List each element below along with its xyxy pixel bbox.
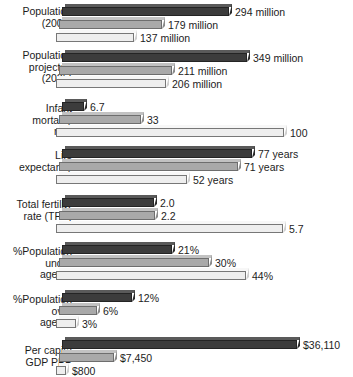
bar-series-container: 6.733100 (0, 99, 353, 142)
bar[interactable] (59, 350, 117, 363)
bar-front-face (59, 211, 155, 220)
bar-series-container: 294 million179 million137 million (0, 4, 353, 47)
bar[interactable] (62, 99, 87, 112)
bar-group: %Population over age 6512%6%3% (0, 290, 353, 333)
bar[interactable] (59, 112, 144, 125)
bar-front-face (59, 306, 97, 315)
bar-front-face (62, 53, 247, 62)
bar-value-label: 77 years (258, 148, 298, 160)
bar-front-face (59, 115, 141, 124)
bar-group: %Population under age 1521%30%44% (0, 242, 353, 285)
bar-front-face (56, 175, 187, 184)
bar-front-face (59, 258, 209, 267)
bar[interactable] (56, 125, 287, 138)
bar[interactable] (62, 195, 157, 208)
bar-value-label: 2.0 (160, 197, 175, 209)
bar[interactable] (56, 30, 137, 43)
bar-series-container: 12%6%3% (0, 290, 353, 333)
bar[interactable] (62, 146, 255, 159)
bar[interactable] (62, 4, 232, 17)
bar-series-container: 2.02.25.7 (0, 195, 353, 238)
bar-front-face (56, 224, 283, 233)
bar-value-label: 137 million (140, 32, 190, 44)
bar[interactable] (59, 17, 165, 30)
bar[interactable] (56, 316, 79, 329)
bar[interactable] (56, 363, 69, 376)
bar[interactable] (62, 242, 175, 255)
bar-front-face (56, 128, 284, 137)
bar-value-label: $36,110 (303, 339, 340, 351)
bar-value-label: 179 million (168, 19, 218, 31)
bar-front-face (59, 162, 238, 171)
bar[interactable] (59, 208, 158, 221)
bar-value-label: 211 million (178, 65, 227, 77)
bar-value-label: $7,450 (120, 352, 152, 364)
bar-value-label: 100 (290, 127, 308, 139)
bar-value-label: 206 million (172, 78, 222, 90)
bar-group: Population projected (2025)349 million21… (0, 50, 353, 93)
bar-front-face (59, 353, 114, 362)
bar-series-container: 77 years71 years52 years (0, 146, 353, 189)
bar[interactable] (62, 290, 135, 303)
bar-value-label: 5.7 (289, 223, 304, 235)
bar-group: Per capita GDP PPP$36,110$7,450$800 (0, 337, 353, 377)
bar-value-label: 349 million (253, 52, 303, 64)
bar-front-face (56, 33, 134, 42)
bar-front-face (56, 319, 76, 328)
bar-value-label: 3% (82, 318, 97, 330)
bar-group: Infant mortality rate6.733100 (0, 99, 353, 142)
bar-group: Population (2004)294 million179 million1… (0, 4, 353, 47)
bar-front-face (56, 271, 246, 280)
bar-value-label: 294 million (235, 6, 285, 18)
bar-front-face (62, 149, 252, 158)
bar-value-label: 44% (252, 270, 273, 282)
bar-series-container: $36,110$7,450$800 (0, 337, 353, 377)
bar-value-label: 12% (138, 292, 159, 304)
bar-series-container: 21%30%44% (0, 242, 353, 285)
bar-front-face (56, 79, 166, 88)
bar-value-label: 6% (103, 305, 118, 317)
population-comparison-chart: Population (2004)294 million179 million1… (0, 0, 353, 377)
bar[interactable] (56, 76, 169, 89)
bar-front-face (56, 366, 66, 375)
bar[interactable] (59, 63, 175, 76)
bar-front-face (62, 245, 172, 254)
bar-front-face (59, 66, 172, 75)
bar-value-label: 52 years (193, 174, 233, 186)
bar[interactable] (56, 172, 190, 185)
bar-group: Total fertility rate (TFR)2.02.25.7 (0, 195, 353, 238)
bar-group: Life expectancy77 years71 years52 years (0, 146, 353, 189)
bar[interactable] (59, 303, 100, 316)
bar-value-label: $800 (72, 365, 95, 377)
bar-series-container: 349 million211 million206 million (0, 50, 353, 93)
bar[interactable] (56, 221, 286, 234)
bar-front-face (62, 293, 132, 302)
bar-value-label: 71 years (244, 161, 284, 173)
bar-front-face (62, 340, 297, 349)
bar[interactable] (62, 337, 300, 350)
bar[interactable] (62, 50, 250, 63)
bar-front-face (62, 102, 84, 111)
bar-front-face (62, 198, 154, 207)
bar-front-face (62, 7, 229, 16)
bar[interactable] (56, 268, 249, 281)
bar[interactable] (59, 255, 212, 268)
bar[interactable] (59, 159, 241, 172)
bar-front-face (59, 20, 162, 29)
